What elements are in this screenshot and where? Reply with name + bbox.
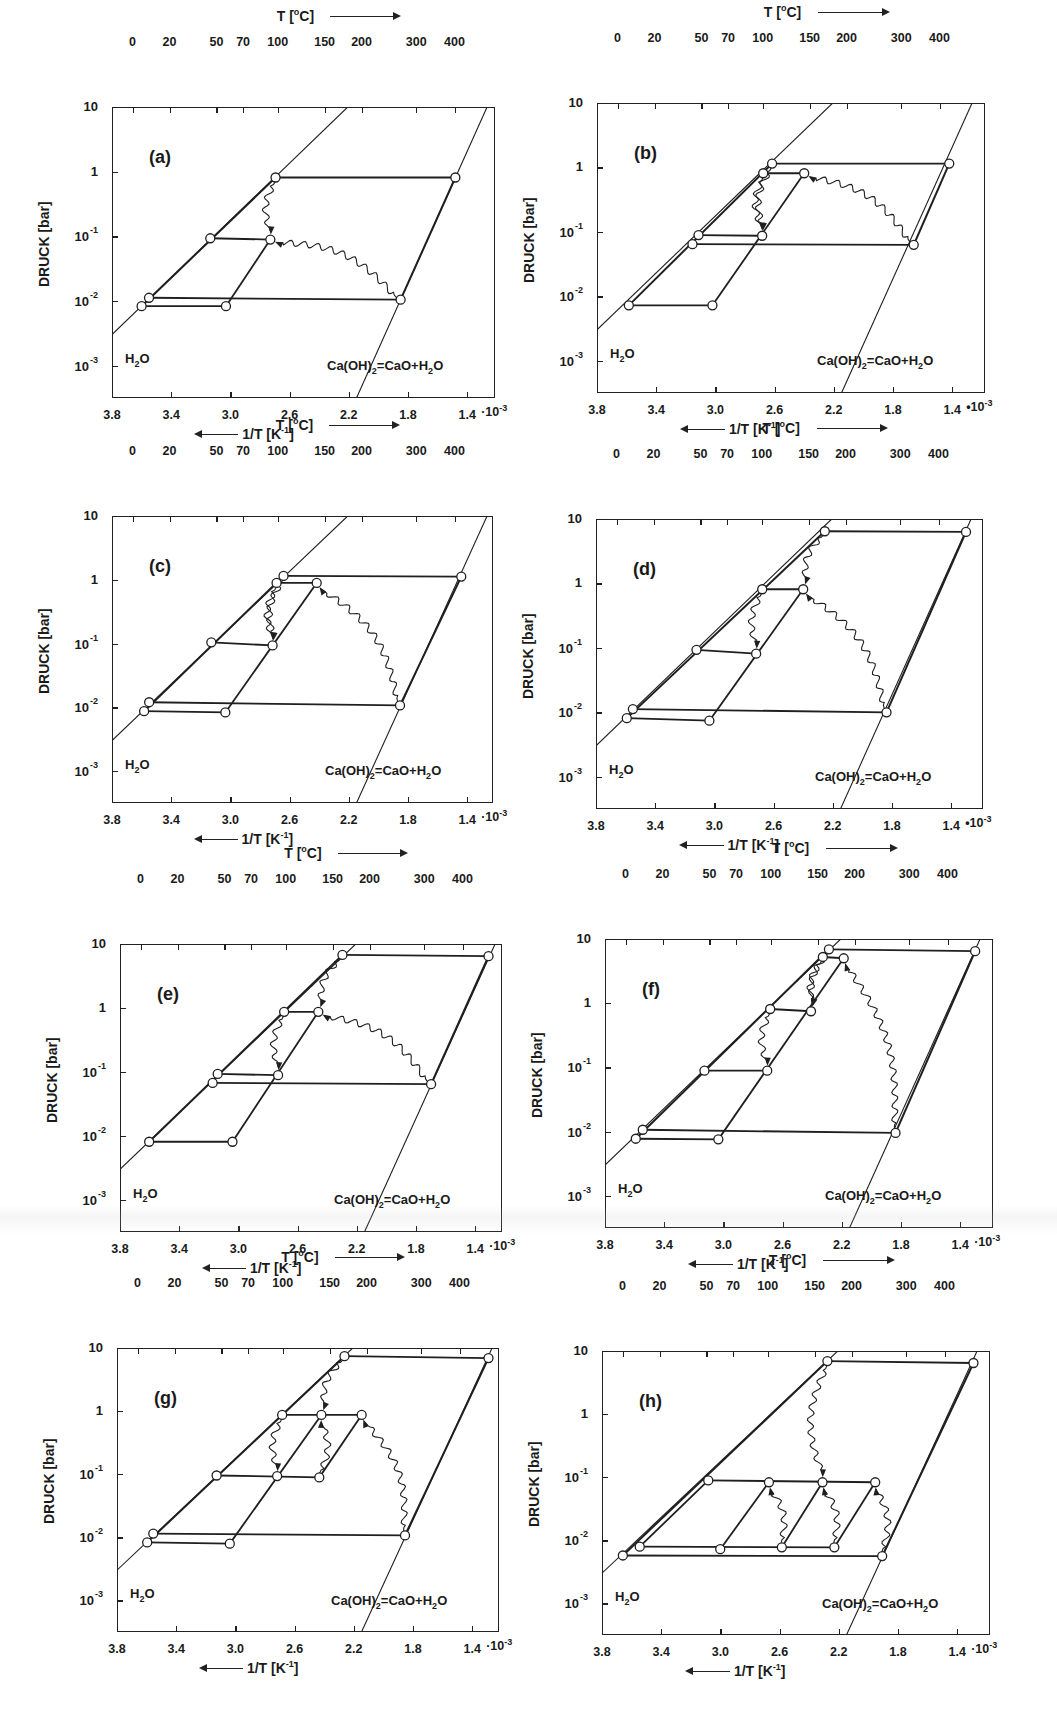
state-point-marker bbox=[871, 1478, 880, 1487]
arrowhead-icon bbox=[806, 593, 813, 601]
temperature-arrow bbox=[818, 12, 888, 13]
top-tick-label: 20 bbox=[653, 1279, 667, 1293]
state-point-marker bbox=[820, 527, 829, 536]
state-point-marker bbox=[692, 645, 701, 654]
top-tick-label: 70 bbox=[241, 1276, 255, 1290]
top-tick-label: 200 bbox=[359, 872, 380, 886]
temperature-axis-label: T [oC] bbox=[762, 419, 799, 436]
top-tick-label: 20 bbox=[647, 447, 661, 461]
reaction-active-segment bbox=[431, 956, 488, 1084]
bottom-tick-label: 2.6 bbox=[765, 819, 782, 833]
top-tick-label: 70 bbox=[236, 444, 250, 458]
cycle-segment bbox=[147, 1542, 230, 1543]
reaction-active-segment bbox=[914, 164, 950, 245]
inverse-temperature-axis-label: 1/T [K-1] bbox=[247, 1659, 299, 1676]
heat-flow-wave bbox=[264, 587, 276, 639]
cycle-segment bbox=[643, 1130, 896, 1133]
state-point-marker bbox=[766, 1005, 775, 1014]
heat-flow-wave bbox=[758, 1013, 770, 1064]
y-tick-label: 10-2 bbox=[72, 1128, 106, 1144]
top-tick-label: 100 bbox=[272, 1276, 293, 1290]
top-tick-label: 0 bbox=[614, 31, 621, 45]
y-tick-label: 10-3 bbox=[548, 769, 582, 785]
bottom-tick-label: 3.4 bbox=[655, 1238, 672, 1252]
heat-flow-wave bbox=[277, 240, 397, 298]
bottom-tick-label: 3.0 bbox=[715, 1238, 732, 1252]
top-tick-label: 400 bbox=[937, 867, 958, 881]
top-tick-label: 100 bbox=[760, 867, 781, 881]
cycle-segment bbox=[319, 1415, 361, 1477]
plot-area bbox=[120, 944, 502, 1232]
pressure-axis-label: DRUCK [bar] bbox=[44, 1037, 60, 1123]
top-tick-label: 70 bbox=[244, 872, 258, 886]
arrowhead-icon bbox=[318, 1420, 324, 1428]
top-tick-label: 20 bbox=[171, 872, 185, 886]
bottom-tick-label: 1.8 bbox=[399, 408, 416, 422]
bottom-tick-label: 2.2 bbox=[340, 813, 357, 827]
y-tick-label: 10-2 bbox=[554, 1532, 588, 1548]
y-tick-label: 10-3 bbox=[557, 1188, 591, 1204]
cycle-segment bbox=[636, 1139, 719, 1140]
state-point-marker bbox=[145, 293, 154, 302]
temperature-axis-label: T [oC] bbox=[276, 416, 313, 433]
state-point-marker bbox=[401, 1531, 410, 1540]
top-tick-label: 100 bbox=[275, 872, 296, 886]
bottom-tick-label: 3.0 bbox=[706, 819, 723, 833]
top-tick-label: 50 bbox=[217, 872, 231, 886]
y-tick-label: 10-3 bbox=[549, 353, 583, 369]
y-tick-label: 1 bbox=[557, 995, 591, 1010]
state-point-marker bbox=[312, 578, 321, 587]
arrowhead-icon bbox=[754, 640, 760, 648]
bottom-tick-label: 2.2 bbox=[345, 1642, 362, 1656]
x-multiplier: ·10-3 bbox=[481, 809, 507, 824]
cycle-segment bbox=[226, 240, 270, 307]
top-tick-label: 300 bbox=[411, 1276, 432, 1290]
arrowhead-icon bbox=[323, 1402, 329, 1411]
pressure-axis-label: DRUCK [bar] bbox=[520, 613, 536, 699]
state-point-marker bbox=[759, 169, 768, 178]
heat-flow-wave bbox=[364, 1422, 407, 1532]
bottom-tick-label: 1.4 bbox=[463, 1642, 480, 1656]
heat-flow-wave bbox=[824, 1489, 840, 1543]
cycle-segment bbox=[344, 1356, 488, 1358]
state-point-marker bbox=[839, 954, 848, 963]
inverse-temperature-arrow bbox=[196, 839, 238, 840]
plot-area bbox=[117, 1348, 499, 1632]
temperature-arrow bbox=[826, 848, 896, 849]
y-tick-label: 10-2 bbox=[549, 288, 583, 304]
state-point-marker bbox=[213, 1069, 222, 1078]
y-tick-label: 10-2 bbox=[548, 704, 582, 720]
top-tick-label: 50 bbox=[214, 1276, 228, 1290]
y-tick-label: 10-1 bbox=[64, 228, 98, 244]
state-point-marker bbox=[824, 945, 833, 954]
state-point-marker bbox=[945, 159, 954, 168]
top-tick-label: 70 bbox=[236, 35, 250, 49]
y-tick-label: 1 bbox=[64, 164, 98, 179]
top-tick-label: 50 bbox=[702, 867, 716, 881]
y-tick-label: 10 bbox=[557, 931, 591, 946]
state-point-marker bbox=[763, 1066, 772, 1075]
state-point-marker bbox=[694, 231, 703, 240]
state-point-marker bbox=[714, 1135, 723, 1144]
bottom-tick-label: 3.0 bbox=[712, 1645, 729, 1659]
state-point-marker bbox=[768, 159, 777, 168]
state-point-marker bbox=[638, 1125, 647, 1134]
state-point-marker bbox=[274, 1071, 283, 1080]
state-point-marker bbox=[624, 301, 633, 310]
y-tick-label: 10-3 bbox=[554, 1595, 588, 1611]
heat-flow-wave bbox=[324, 1016, 428, 1082]
x-multiplier: •10-3 bbox=[965, 815, 991, 830]
top-tick-label: 50 bbox=[209, 444, 223, 458]
cycle-segment bbox=[210, 238, 270, 239]
bottom-tick-label: 2.6 bbox=[281, 813, 298, 827]
reaction-active-segment bbox=[405, 1358, 488, 1535]
top-tick-label: 200 bbox=[844, 867, 865, 881]
x-multiplier: ·10-3 bbox=[971, 1641, 997, 1656]
pressure-axis-label: DRUCK [bar] bbox=[41, 1439, 57, 1525]
top-tick-label: 400 bbox=[444, 444, 465, 458]
bottom-tick-label: 1.8 bbox=[404, 1642, 421, 1656]
top-tick-label: 300 bbox=[406, 444, 427, 458]
y-tick-label: 10-3 bbox=[64, 763, 98, 779]
top-tick-label: 20 bbox=[163, 35, 177, 49]
state-point-marker bbox=[149, 1529, 158, 1538]
